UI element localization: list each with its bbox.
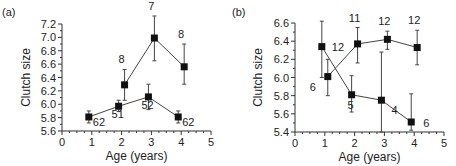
y-tick-label: 6.2 bbox=[274, 53, 289, 65]
data-point bbox=[121, 81, 128, 88]
sample-size-label: 7 bbox=[148, 0, 154, 12]
sample-size-label: 12 bbox=[408, 14, 420, 26]
data-point bbox=[324, 73, 331, 80]
x-tick-label: 2 bbox=[352, 137, 358, 149]
x-tick-label: 5 bbox=[208, 136, 214, 148]
y-tick-label: 6.6 bbox=[274, 17, 289, 29]
series-declining: 12546 bbox=[318, 21, 429, 132]
x-tick-label: 4 bbox=[411, 137, 417, 149]
sample-size-label: 52 bbox=[141, 99, 153, 111]
chart-panel-b: (b)5.45.65.86.06.26.46.6012345Age (years… bbox=[232, 6, 447, 164]
sample-size-label: 12 bbox=[378, 15, 390, 27]
y-tick-label: 6.0 bbox=[274, 72, 289, 84]
x-tick-label: 0 bbox=[59, 136, 65, 148]
data-point bbox=[348, 91, 355, 98]
data-point bbox=[378, 97, 385, 104]
x-tick-label: 1 bbox=[89, 136, 95, 148]
chart-panel-a: (a)5.65.86.06.26.46.66.87.07.2012345Age … bbox=[2, 0, 214, 163]
sample-size-label: 62 bbox=[182, 116, 194, 128]
sample-size-label: 8 bbox=[119, 53, 125, 65]
data-point bbox=[408, 119, 415, 126]
data-point bbox=[151, 35, 158, 42]
sample-size-label: 6 bbox=[310, 81, 316, 93]
y-tick-label: 6.6 bbox=[41, 58, 56, 70]
y-axis-label: Clutch size bbox=[19, 48, 33, 107]
sample-size-label: 62 bbox=[93, 116, 105, 128]
panel-label: (b) bbox=[232, 6, 245, 18]
x-tick-label: 4 bbox=[178, 136, 184, 148]
x-axis-label: Age (years) bbox=[105, 149, 167, 163]
x-tick-label: 0 bbox=[292, 137, 298, 149]
data-point bbox=[181, 63, 188, 70]
y-tick-label: 5.8 bbox=[274, 90, 289, 102]
y-tick-label: 6.2 bbox=[41, 85, 56, 97]
sample-size-label: 11 bbox=[349, 12, 360, 24]
data-point bbox=[414, 44, 421, 51]
data-point bbox=[318, 43, 325, 50]
y-tick-label: 6.8 bbox=[41, 45, 56, 57]
data-point bbox=[384, 36, 391, 43]
x-tick-label: 3 bbox=[148, 136, 154, 148]
sample-size-label: 51 bbox=[112, 108, 124, 120]
series-lower: 62515262 bbox=[85, 84, 194, 128]
x-tick-label: 3 bbox=[381, 137, 387, 149]
y-tick-label: 5.6 bbox=[274, 108, 289, 120]
figure: (a)5.65.86.06.26.46.66.87.07.2012345Age … bbox=[0, 0, 456, 166]
y-tick-label: 6.4 bbox=[41, 72, 56, 84]
data-point bbox=[354, 40, 361, 47]
sample-size-label: 8 bbox=[178, 28, 184, 40]
sample-size-label: 6 bbox=[423, 117, 429, 129]
x-tick-label: 5 bbox=[441, 137, 447, 149]
data-point bbox=[175, 113, 182, 120]
panel-label: (a) bbox=[2, 6, 15, 18]
x-axis-label: Age (years) bbox=[338, 150, 400, 164]
data-point bbox=[85, 113, 92, 120]
y-tick-label: 6.4 bbox=[274, 35, 289, 47]
y-tick-label: 6.0 bbox=[41, 98, 56, 110]
y-tick-label: 7.2 bbox=[41, 18, 56, 30]
sample-size-label: 12 bbox=[332, 41, 344, 53]
x-tick-label: 2 bbox=[119, 136, 125, 148]
y-tick-label: 5.8 bbox=[41, 112, 56, 124]
sample-size-label: 4 bbox=[391, 104, 397, 116]
y-tick-label: 5.4 bbox=[274, 126, 289, 138]
x-tick-label: 1 bbox=[322, 137, 328, 149]
y-tick-label: 7.0 bbox=[41, 31, 56, 43]
y-axis-label: Clutch size bbox=[251, 48, 265, 107]
y-tick-label: 5.6 bbox=[41, 125, 56, 137]
series-upper: 878 bbox=[119, 0, 188, 100]
sample-size-label: 5 bbox=[348, 99, 354, 111]
